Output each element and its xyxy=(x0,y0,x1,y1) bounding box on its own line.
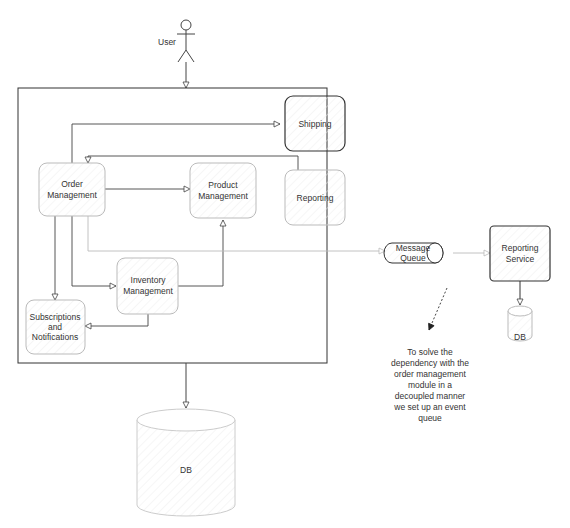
svg-text:Subscriptions: Subscriptions xyxy=(29,312,80,322)
node-main-db[interactable]: DB xyxy=(137,409,235,516)
node-inventory-management[interactable]: Inventory Management xyxy=(117,258,178,314)
user-actor[interactable]: User xyxy=(158,20,195,62)
svg-text:Reporting: Reporting xyxy=(297,193,334,203)
svg-text:Management: Management xyxy=(198,191,248,201)
node-order-management[interactable]: Order Management xyxy=(39,163,105,216)
node-reporting-service[interactable]: Reporting Service xyxy=(490,226,550,281)
note-line: module in a xyxy=(378,380,482,391)
svg-text:Inventory: Inventory xyxy=(131,275,167,285)
edge-note-to-queue xyxy=(429,288,447,330)
architecture-diagram: User Shipping Reporting Order Management… xyxy=(0,0,570,528)
node-shipping[interactable]: Shipping xyxy=(285,96,345,151)
svg-text:Management: Management xyxy=(47,190,97,200)
node-reporting[interactable]: Reporting xyxy=(285,170,345,225)
svg-text:Queue: Queue xyxy=(400,253,426,263)
note-line: decoupled manner xyxy=(378,391,482,402)
node-product-management[interactable]: Product Management xyxy=(190,163,256,218)
note-line: queue xyxy=(378,413,482,424)
svg-text:Reporting: Reporting xyxy=(502,243,539,253)
svg-text:Service: Service xyxy=(506,254,535,264)
note-line: order management xyxy=(378,369,482,380)
note-line: To solve the xyxy=(378,347,482,358)
svg-text:Order: Order xyxy=(61,179,83,189)
node-subscriptions-notifications[interactable]: Subscriptions and Notifications xyxy=(26,300,85,354)
note-line: dependency with the xyxy=(378,358,482,369)
annotation-note: To solve the dependency with the order m… xyxy=(378,347,482,424)
actor-label: User xyxy=(158,37,176,47)
svg-text:Product: Product xyxy=(208,180,238,190)
svg-text:Message: Message xyxy=(396,243,431,253)
svg-text:DB: DB xyxy=(180,465,192,475)
svg-text:Notifications: Notifications xyxy=(32,332,78,342)
node-reporting-db[interactable]: DB xyxy=(508,306,532,342)
svg-text:and: and xyxy=(48,322,62,332)
svg-text:DB: DB xyxy=(514,332,526,342)
note-line: we set up an event xyxy=(378,402,482,413)
node-message-queue[interactable]: Message Queue xyxy=(384,243,443,263)
svg-text:Management: Management xyxy=(123,286,173,296)
svg-text:Shipping: Shipping xyxy=(298,119,331,129)
actor-head-icon xyxy=(181,20,191,30)
